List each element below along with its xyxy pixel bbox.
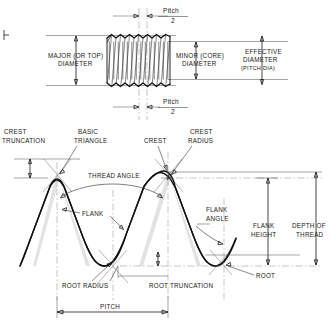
major-diameter-label-line2: DIAMETER bbox=[58, 60, 93, 67]
crest-radius-label-line2: RADIUS bbox=[188, 137, 213, 144]
thread-profile-curve-detail bbox=[20, 173, 236, 267]
depth-of-thread-dimension bbox=[314, 172, 317, 265]
crest-leader bbox=[158, 146, 167, 171]
crest-truncation-label-line1: CREST bbox=[4, 128, 27, 135]
basic-triangle-shading bbox=[33, 172, 201, 266]
basic-triangle-label-line1: BASIC bbox=[78, 128, 98, 135]
root-label: ROOT bbox=[256, 272, 275, 279]
threaded-shaft-body bbox=[107, 35, 170, 87]
profile-view-group: CREST TRUNCATION BASIC TRIANGLE CREST CR… bbox=[2, 128, 326, 318]
pitch-bottom-word: Pitch bbox=[163, 98, 179, 105]
minor-diameter-label-line1: MINOR (CORE) bbox=[176, 52, 224, 60]
flank-height-label-line1: FLANK bbox=[253, 222, 275, 229]
thread-root-lines bbox=[109, 42, 168, 80]
thread-terminology-figure: Pitch 2 Pitch 2 bbox=[0, 0, 334, 324]
stray-tick-mark bbox=[4, 30, 9, 40]
effective-diameter-label-line3: (PITCH DIA) bbox=[241, 65, 275, 71]
flank-height-label-line2: HEIGHT bbox=[251, 231, 276, 238]
flank-angle-label-line2: ANGLE bbox=[206, 215, 229, 222]
basic-triangle-leader bbox=[60, 146, 78, 174]
flank-angle-arc bbox=[196, 224, 223, 245]
pitch-bottom-denominator: 2 bbox=[171, 108, 175, 115]
thread-helix-lines bbox=[107, 35, 170, 87]
pitch-top-denominator: 2 bbox=[171, 17, 175, 24]
flank-label: FLANK bbox=[82, 210, 104, 217]
basic-triangle-label-line2: TRIANGLE bbox=[74, 137, 108, 144]
profile-centerlines bbox=[57, 152, 224, 300]
thread-profile-curve bbox=[20, 171, 236, 266]
depth-of-thread-label-line2: THREAD bbox=[296, 231, 324, 238]
effective-diameter-label-line2: DIAMETER bbox=[243, 56, 278, 63]
crest-radius-label-line1: CREST bbox=[190, 128, 213, 135]
flank-angle-label-line1: FLANK bbox=[206, 206, 228, 213]
crest-label: CREST bbox=[144, 137, 167, 144]
major-diameter-label-line1: MAJOR (OR TOP) bbox=[48, 52, 103, 60]
pitch-half-dimension-bottom bbox=[113, 105, 188, 109]
pitch-top-word: Pitch bbox=[163, 7, 179, 14]
top-view-group: Pitch 2 Pitch 2 bbox=[46, 7, 288, 121]
root-truncation-label: ROOT TRUNCATION bbox=[149, 282, 213, 289]
figure-canvas: Pitch 2 Pitch 2 bbox=[0, 0, 334, 324]
root-radius-label: ROOT RADIUS bbox=[62, 282, 108, 289]
pitch-label: PITCH bbox=[100, 303, 120, 310]
crest-truncation-dimension bbox=[28, 159, 31, 178]
pitch-half-dimension-top bbox=[113, 14, 188, 18]
depth-of-thread-label-line1: DEPTH OF bbox=[292, 222, 326, 229]
top-view-centerlines bbox=[139, 8, 147, 120]
thread-angle-label: THREAD ANGLE bbox=[88, 172, 140, 179]
minor-diameter-label-line2: DIAMETER bbox=[182, 60, 217, 67]
thread-angle-arc bbox=[61, 184, 163, 198]
effective-diameter-label-line1: EFFECTIVE bbox=[245, 48, 282, 55]
crest-truncation-label-line2: TRUNCATION bbox=[2, 137, 46, 144]
